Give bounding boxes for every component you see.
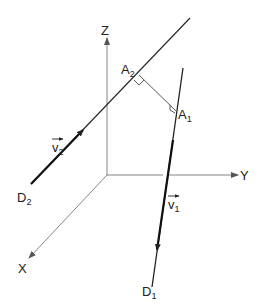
v2-label: v2 [52,140,64,157]
d1-label: D1 [142,284,156,301]
right-angle-marker-a2 [134,80,144,85]
vector-v1 [157,140,173,250]
vector-labels: v2 v1 [52,139,180,214]
a1-label: A1 [178,107,192,124]
y-axis-label: Y [240,168,249,183]
z-axis-label: Z [101,23,109,38]
vector-v2 [31,130,83,184]
skew-lines-diagram: Z Y X A2 A1 D2 D1 v2 v1 [0,0,260,304]
point-labels: A2 A1 D2 D1 [17,62,192,301]
line-d1 [152,68,183,287]
x-axis [29,175,107,258]
x-axis-label: X [18,261,27,276]
d2-label: D2 [17,190,31,207]
v1-label: v1 [168,197,180,214]
a2-label: A2 [121,62,135,79]
